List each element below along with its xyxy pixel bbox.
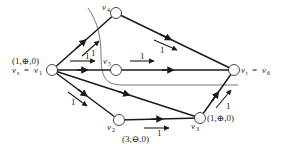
svg-text:=: = bbox=[252, 65, 257, 75]
svg-text:1: 1 bbox=[71, 97, 76, 107]
v5-label: v 5 bbox=[103, 56, 111, 67]
svg-text:2: 2 bbox=[112, 127, 115, 133]
svg-text:s: s bbox=[17, 70, 20, 76]
svg-text:1: 1 bbox=[160, 45, 165, 55]
flow-network-diagram: 1 1 1 1 1 1 1 (1,⊕,0) v s = v 1 v 4 bbox=[0, 0, 283, 151]
svg-text:1: 1 bbox=[226, 101, 231, 111]
svg-text:1: 1 bbox=[85, 51, 90, 61]
node-v1 bbox=[47, 65, 58, 76]
svg-text:v: v bbox=[12, 65, 16, 75]
node-v6 bbox=[229, 65, 240, 76]
edge-v1-v2 bbox=[52, 70, 119, 120]
svg-text:=: = bbox=[24, 65, 29, 75]
edge-v1-v3 bbox=[52, 70, 200, 118]
svg-text:v: v bbox=[103, 56, 107, 66]
node-v4 bbox=[111, 8, 122, 19]
svg-text:4: 4 bbox=[107, 7, 110, 13]
flow-arrow-v5-v6: 1 bbox=[130, 51, 154, 61]
svg-text:1: 1 bbox=[140, 51, 145, 61]
svg-text:1: 1 bbox=[91, 48, 96, 58]
flow-arrow-v4-v6: 1 bbox=[154, 40, 177, 55]
v3-annotation: (1,⊕,0) bbox=[207, 113, 234, 123]
svg-text:t: t bbox=[246, 70, 248, 76]
node-v5 bbox=[111, 65, 122, 76]
svg-text:6: 6 bbox=[267, 70, 270, 76]
svg-text:5: 5 bbox=[108, 61, 111, 67]
svg-text:v: v bbox=[241, 65, 245, 75]
v2-label: v 2 bbox=[107, 122, 115, 133]
svg-text:1: 1 bbox=[39, 70, 42, 76]
svg-text:1: 1 bbox=[157, 128, 162, 138]
v6-label: v t = v 6 bbox=[241, 65, 270, 76]
edge-v2-v3 bbox=[119, 118, 200, 120]
v4-label: v 4 bbox=[102, 2, 110, 13]
svg-text:v: v bbox=[107, 122, 111, 132]
svg-text:v: v bbox=[191, 121, 195, 131]
svg-text:v: v bbox=[262, 65, 266, 75]
svg-text:v: v bbox=[102, 2, 106, 12]
node-v3 bbox=[195, 113, 206, 124]
node-v2 bbox=[114, 115, 125, 126]
v2-annotation: (3,⊖,0) bbox=[122, 134, 149, 144]
svg-text:3: 3 bbox=[196, 126, 199, 132]
svg-text:v: v bbox=[34, 65, 38, 75]
v1-label: v s = v 1 bbox=[12, 65, 42, 76]
